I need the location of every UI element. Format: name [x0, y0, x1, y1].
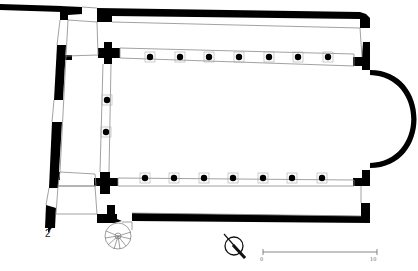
column	[258, 173, 268, 183]
walls	[0, 4, 370, 233]
spiral-staircase	[105, 222, 132, 249]
column	[264, 52, 274, 62]
scale-start-label: 0	[260, 256, 263, 262]
column	[228, 173, 238, 183]
column	[204, 52, 214, 62]
column	[199, 173, 209, 183]
floor-plan	[0, 0, 418, 271]
south-colonnade	[140, 173, 327, 183]
column	[145, 52, 155, 62]
figure-label: 2	[45, 228, 51, 239]
outlines	[46, 7, 362, 216]
column	[169, 173, 179, 183]
scale-end-label: 10	[370, 256, 376, 262]
north-arrow-icon	[224, 234, 245, 258]
column	[317, 173, 327, 183]
column	[287, 173, 297, 183]
apse-wall	[370, 70, 417, 168]
column	[234, 52, 244, 62]
scale-bar	[263, 249, 377, 255]
column	[293, 52, 303, 62]
north-colonnade	[145, 52, 333, 62]
